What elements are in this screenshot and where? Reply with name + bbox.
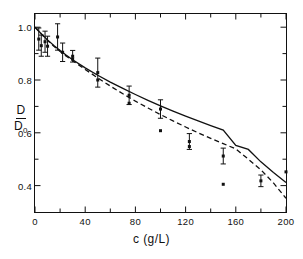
data-marker	[61, 51, 64, 54]
plot-canvas	[0, 0, 303, 259]
data-marker-plain	[222, 183, 225, 186]
x-tick-label: 200	[278, 216, 295, 227]
data-marker-plain	[71, 57, 74, 60]
errorbar-points	[36, 24, 263, 187]
data-marker-plain	[188, 145, 191, 148]
errorbar-point	[95, 58, 100, 87]
data-marker	[44, 40, 47, 43]
data-marker-plain	[159, 129, 162, 132]
y-axis-title: D D0	[8, 104, 34, 135]
data-marker	[46, 45, 49, 48]
y-axis-fraction: D D0	[14, 104, 28, 135]
y-axis-numerator: D	[14, 104, 28, 117]
data-marker	[96, 71, 99, 74]
data-marker-plain	[96, 79, 99, 82]
errorbar-point	[45, 36, 50, 56]
data-marker-plain	[285, 170, 288, 173]
x-tick-label: 160	[227, 216, 244, 227]
y-tick-label: 0.8	[8, 75, 32, 86]
errorbar-point	[158, 100, 163, 118]
data-marker-plain	[128, 102, 131, 105]
y-tick-label: 0.4	[8, 180, 32, 191]
x-tick-label: 40	[80, 216, 91, 227]
data-marker	[56, 35, 59, 38]
diffusion-ratio-chart: 040801201602000.40.60.81.0 D D0 c (g/L)	[0, 0, 303, 259]
x-axis-title: c (g/L)	[0, 232, 303, 246]
data-marker	[188, 140, 191, 143]
data-marker	[159, 108, 162, 111]
data-marker	[259, 179, 262, 182]
plain-points	[71, 57, 287, 185]
data-marker	[222, 155, 225, 158]
data-marker	[37, 38, 40, 41]
x-tick-label: 80	[130, 216, 141, 227]
x-tick-label: 0	[32, 216, 38, 227]
y-axis-denominator: D0	[14, 120, 28, 136]
y-tick-label: 1.0	[8, 22, 32, 33]
x-tick-label: 120	[177, 216, 194, 227]
errorbar-point	[42, 31, 47, 52]
data-marker	[128, 94, 131, 97]
data-marker	[40, 44, 43, 47]
errorbar-point	[258, 175, 263, 187]
errorbar-point	[221, 148, 226, 164]
data-marker	[71, 55, 74, 58]
